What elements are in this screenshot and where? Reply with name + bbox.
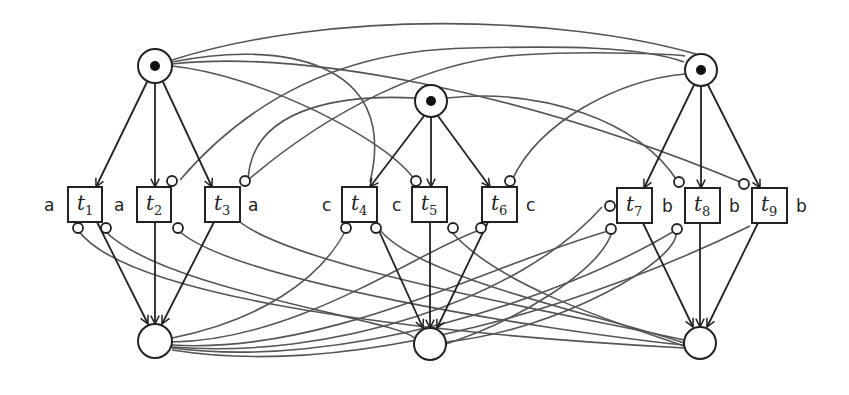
transition-t5: t5 c: [392, 187, 447, 222]
transition-t4: t4 c: [322, 187, 377, 222]
action-label: b: [662, 196, 673, 216]
action-label: b: [729, 196, 740, 216]
action-label: c: [392, 195, 401, 215]
place-p5: [414, 328, 446, 360]
transition-t1: t1 a: [44, 187, 102, 222]
petri-net-diagram: t1 a t2 a t3 a t4 c t5 c t6 c t7 b t8 b …: [0, 0, 849, 395]
action-label: a: [44, 195, 54, 215]
transition-t9: t9 b: [752, 188, 807, 223]
transition-t8: t8 b: [685, 188, 740, 223]
action-label: c: [526, 195, 535, 215]
place-p2: [415, 85, 447, 117]
transition-t3: t3 a: [205, 187, 258, 222]
token-icon: [150, 61, 160, 71]
action-label: b: [796, 196, 807, 216]
transition-t2: t2 a: [114, 187, 171, 222]
action-label: a: [114, 195, 124, 215]
action-label: c: [322, 195, 331, 215]
transition-t7: t7 b: [617, 188, 673, 223]
action-label: a: [248, 195, 258, 215]
inhibitor-arcs-top: [172, 24, 745, 184]
place-p1: [138, 49, 172, 83]
place-p3: [685, 54, 717, 86]
token-icon: [426, 96, 436, 106]
place-p6: [684, 327, 716, 359]
place-p4: [138, 324, 172, 358]
transition-t6: t6 c: [482, 187, 535, 222]
token-icon: [696, 65, 706, 75]
